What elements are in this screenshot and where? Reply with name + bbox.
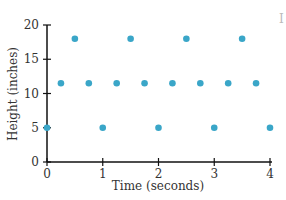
data-point [197, 80, 204, 87]
data-point [253, 80, 260, 87]
edge-mark: I [279, 12, 284, 26]
data-point [239, 35, 246, 42]
data-point [113, 80, 120, 87]
y-tick-label: 15 [24, 52, 39, 66]
data-point [225, 80, 232, 87]
scatter-chart: 05101520 01234 Time (seconds) Height (in… [0, 0, 286, 200]
y-axis: 05101520 [24, 18, 51, 169]
y-axis-title: Height (inches) [6, 47, 20, 141]
data-point [72, 35, 79, 42]
x-axis: 01234 [43, 158, 274, 181]
data-point [127, 35, 134, 42]
x-axis-title: Time (seconds) [112, 179, 204, 193]
y-tick-label: 10 [24, 87, 39, 101]
x-tick-label: 4 [266, 167, 274, 181]
y-tick-label: 0 [31, 155, 39, 169]
data-point [155, 124, 162, 131]
y-tick-label: 20 [24, 18, 39, 32]
y-tick-label: 5 [31, 121, 39, 135]
data-points [44, 35, 274, 131]
x-tick-label: 3 [210, 167, 218, 181]
data-point [99, 124, 106, 131]
data-point [183, 35, 190, 42]
data-point [44, 124, 51, 131]
data-point [169, 80, 176, 87]
data-point [86, 80, 93, 87]
data-point [141, 80, 148, 87]
data-point [58, 80, 65, 87]
data-point [211, 124, 218, 131]
x-tick-label: 1 [99, 167, 107, 181]
x-tick-label: 0 [43, 167, 51, 181]
data-point [267, 124, 274, 131]
